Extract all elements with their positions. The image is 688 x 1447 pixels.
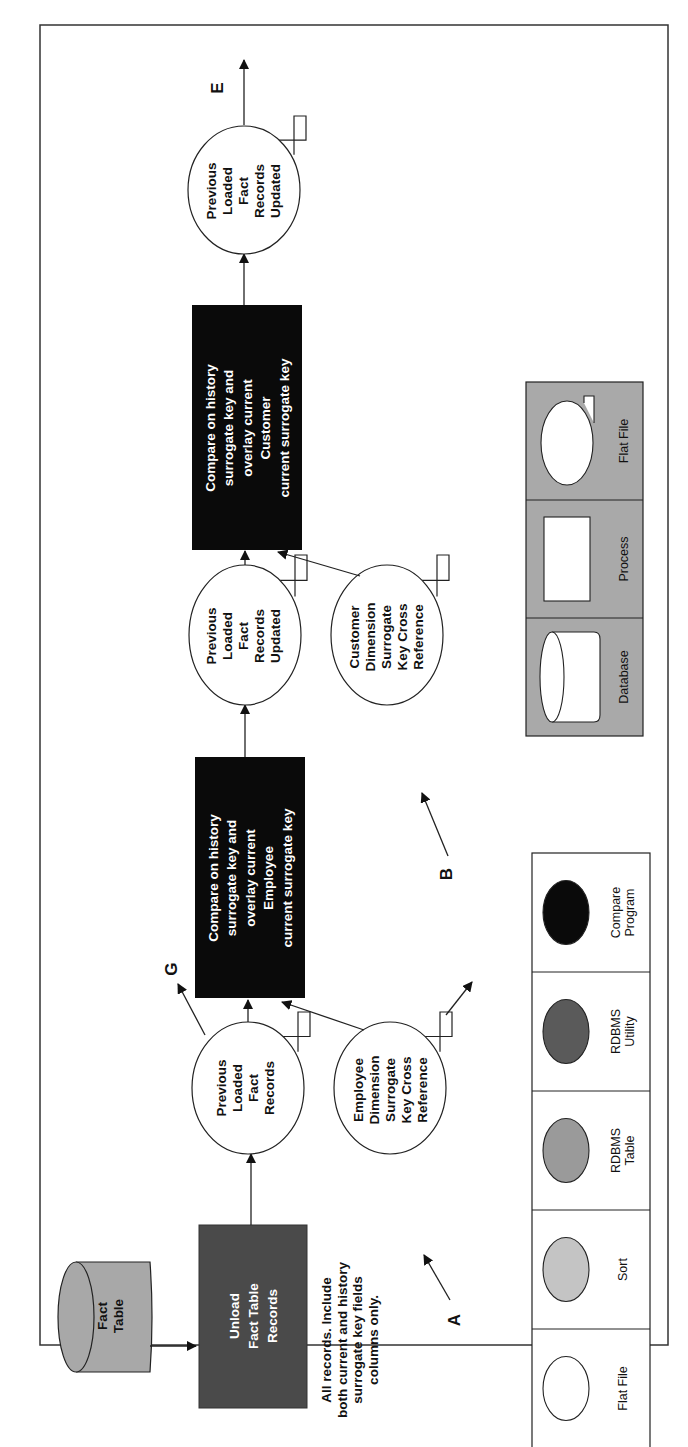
prev-loaded-2-label-line: Records	[252, 609, 267, 663]
legend-label-2-line: RDBMS	[609, 1128, 623, 1173]
prev-loaded-3-label-line: Updated	[268, 164, 283, 218]
unload-note: All records. Includeboth current and his…	[319, 1262, 381, 1419]
legend-label-1-line: Sort	[616, 1258, 630, 1281]
connector-A: A	[445, 1314, 464, 1326]
diagram-body: FactTableUnloadFact TableRecordsAll reco…	[58, 60, 650, 1447]
unload-label-line: Records	[265, 1289, 280, 1343]
employee-xref-label: EmployeeDimensionSurrogateKey CrossRefer…	[351, 1055, 430, 1124]
legend-label-3-line: Utility	[623, 1015, 637, 1046]
prev-loaded-2-label-line: Previous	[204, 607, 219, 664]
edge-B-to-cust-xref	[422, 793, 448, 856]
connector-B: B	[437, 868, 456, 880]
compare-employee-label-line: Compare on history	[206, 814, 221, 942]
customer-xref-label-line: Customer	[347, 605, 362, 669]
customer-xref-label-line: Dimension	[363, 602, 378, 671]
edge-emp-xref-off-page	[446, 982, 472, 1015]
legend-label-2-line: Table	[623, 1136, 637, 1166]
prev-loaded-1-label-line: Previous	[214, 1059, 229, 1116]
legend-symbols: DatabaseProcessFlat File	[526, 382, 643, 736]
legend-swatch-sort-icon	[543, 1238, 589, 1302]
customer-xref-label: CustomerDimensionSurrogateKey CrossRefer…	[347, 602, 426, 671]
legend-symbol-label: Database	[617, 650, 631, 704]
legend-symbol-label: Process	[617, 536, 631, 581]
prev-loaded-3-label-line: Previous	[204, 162, 219, 219]
data-flow-diagram: FactTableUnloadFact TableRecordsAll reco…	[0, 0, 688, 1447]
employee-xref-label-line: Key Cross	[399, 1057, 414, 1124]
unload-note-line: All records. Include	[319, 1277, 334, 1403]
prev-loaded-1-label-line: Records	[262, 1061, 277, 1115]
legend-label-0-line: Flat File	[616, 1366, 630, 1411]
unload-note-line: surrogate key fields	[350, 1276, 365, 1404]
employee-xref-label-line: Employee	[351, 1058, 366, 1122]
compare-customer-label-line: Compare on history	[203, 364, 218, 492]
customer-xref-label-line: Surrogate	[379, 605, 394, 669]
unload-note-line: columns only.	[366, 1295, 381, 1385]
legend-swatch-rdbms-table-icon	[543, 1119, 589, 1183]
legend-swatch-compare-program-icon	[543, 881, 589, 945]
prev-loaded-1-label-line: Fact	[246, 1074, 261, 1102]
legend-swatch-flat-file-icon	[543, 1357, 589, 1421]
employee-xref-label-line: Dimension	[367, 1055, 382, 1124]
connector-G: G	[162, 962, 181, 975]
unload-label-line: Fact Table	[246, 1283, 261, 1349]
legend-label-0: Flat File	[616, 1366, 630, 1411]
prev-loaded-2-label-line: Updated	[268, 609, 283, 663]
edge-cust-xref-to-compare-cust	[278, 552, 360, 576]
unload-note-line: both current and history	[335, 1262, 350, 1419]
legend-label-4-line: Compare	[609, 887, 623, 938]
compare-employee-label-line: current surrogate key	[280, 808, 295, 947]
edge-A-to-emp-xref	[424, 1255, 450, 1300]
prev-loaded-2-label-line: Fact	[236, 622, 251, 650]
database-symbol-icon	[540, 632, 600, 722]
legend-label-3-line: RDBMS	[609, 1009, 623, 1054]
legend-label-1: Sort	[616, 1258, 630, 1281]
prev-loaded-3-label-line: Fact	[236, 177, 251, 205]
process-symbol-icon	[544, 517, 590, 601]
legend-label-4: CompareProgram	[609, 887, 637, 938]
fact-table-label-line: Table	[111, 1298, 126, 1333]
unload-label-line: Unload	[227, 1293, 242, 1339]
employee-xref-label-line: Reference	[415, 1057, 430, 1123]
legend-symbol-label: Flat File	[617, 419, 631, 464]
compare-employee-label-line: surrogate key and	[224, 820, 239, 936]
legend-swatch-rdbms-utility-icon	[543, 1000, 589, 1064]
employee-xref-label-line: Surrogate	[383, 1058, 398, 1122]
compare-customer-label-line: current surrogate key	[277, 358, 292, 497]
edge-emp-xref-to-compare-emp	[282, 1002, 364, 1030]
prev-loaded-2-label-line: Loaded	[220, 612, 235, 660]
compare-customer-label-line: overlay current	[240, 379, 255, 477]
compare-employee-label-line: Employee	[261, 846, 276, 910]
connector-E: E	[208, 82, 227, 93]
customer-xref-label-line: Key Cross	[395, 604, 410, 671]
compare-employee-label-line: overlay current	[243, 829, 258, 927]
prev-loaded-3-label-line: Loaded	[220, 167, 235, 215]
compare-customer-label-line: Customer	[258, 396, 273, 460]
fact-table-label-line: Fact	[95, 1302, 110, 1330]
prev-loaded-1-label-line: Loaded	[230, 1064, 245, 1112]
prev-loaded-3-label-line: Records	[252, 164, 267, 218]
compare-customer-label-line: surrogate key and	[221, 370, 236, 486]
fact-table-label: FactTable	[95, 1298, 126, 1333]
legend-label-4-line: Program	[623, 889, 637, 937]
customer-xref-label-line: Reference	[411, 604, 426, 670]
